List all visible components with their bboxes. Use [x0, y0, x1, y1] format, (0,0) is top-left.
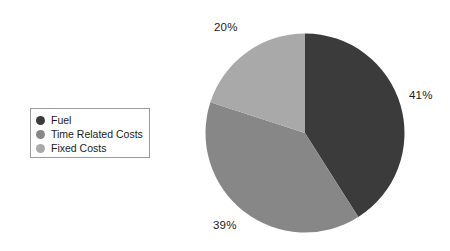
slice-label-time-related-costs: 39% [213, 219, 237, 231]
pie-svg [205, 33, 405, 233]
legend-swatch-icon [36, 116, 45, 125]
slice-label-fixed-costs: 20% [214, 21, 238, 33]
legend: Fuel Time Related Costs Fixed Costs [30, 108, 150, 158]
legend-item-time-related-costs: Time Related Costs [36, 127, 149, 141]
legend-label-time-related-costs: Time Related Costs [51, 128, 143, 141]
legend-item-fixed-costs: Fixed Costs [36, 141, 149, 155]
legend-swatch-icon [36, 144, 45, 153]
pie-chart [205, 33, 405, 233]
pie-slice-group [206, 34, 405, 233]
legend-label-fuel: Fuel [51, 114, 71, 127]
legend-item-fuel: Fuel [36, 113, 149, 127]
pie-chart-figure: 41% 39% 20% Fuel Time Related Costs Fixe… [0, 0, 450, 251]
legend-label-fixed-costs: Fixed Costs [51, 142, 106, 155]
legend-swatch-icon [36, 130, 45, 139]
slice-label-fuel: 41% [409, 89, 433, 101]
